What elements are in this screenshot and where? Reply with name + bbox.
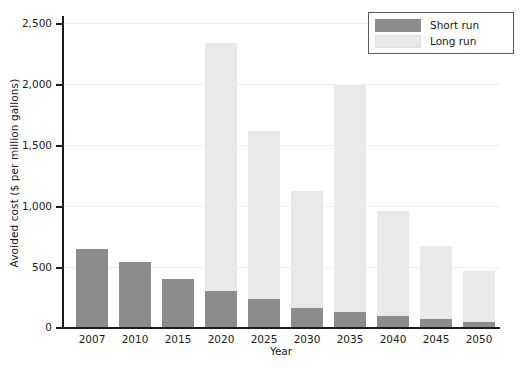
bar-2025[interactable]	[248, 131, 280, 327]
bar-2007[interactable]	[76, 249, 108, 327]
bar-chart-figure: Avoided cost ($ per million gallons) 2,5…	[0, 0, 521, 368]
bar-segment-long-run[interactable]	[420, 246, 452, 319]
x-axis-label: Year	[62, 345, 500, 357]
x-tick-label-2025: 2025	[242, 333, 286, 345]
x-tick-label-2007: 2007	[70, 333, 114, 345]
bar-segment-short-run[interactable]	[420, 319, 452, 327]
bar-segment-short-run[interactable]	[334, 312, 366, 327]
bar-segment-long-run[interactable]	[377, 211, 409, 316]
legend-item-short-run[interactable]: Short run	[375, 17, 507, 33]
y-axis-tick-labels: 2,500 2,000 1,500 1,000 500 0	[4, 0, 52, 368]
bar-2030[interactable]	[291, 191, 323, 327]
plot-area	[62, 18, 500, 327]
bar-segment-short-run[interactable]	[291, 308, 323, 327]
bar-segment-long-run[interactable]	[205, 43, 237, 290]
bar-segment-short-run[interactable]	[463, 322, 495, 327]
bar-segment-long-run[interactable]	[334, 85, 366, 312]
x-axis-spine	[62, 327, 500, 329]
gridline-ghost	[62, 206, 500, 207]
legend-swatch-long-run	[375, 35, 421, 48]
bar-segment-short-run[interactable]	[205, 291, 237, 327]
bar-2020[interactable]	[205, 43, 237, 327]
y-tick-label: 0	[8, 322, 52, 333]
bar-segment-short-run[interactable]	[377, 316, 409, 327]
y-tick-label: 2,000	[8, 79, 52, 90]
x-tick-label-2035: 2035	[328, 333, 372, 345]
bar-2040[interactable]	[377, 211, 409, 327]
bar-segment-long-run[interactable]	[463, 271, 495, 321]
x-tick-label-2020: 2020	[199, 333, 243, 345]
x-tick-label-2010: 2010	[113, 333, 157, 345]
x-tick-label-2030: 2030	[285, 333, 329, 345]
x-tick-label-2045: 2045	[414, 333, 458, 345]
bar-segment-short-run[interactable]	[76, 249, 108, 327]
x-tick-label-2015: 2015	[156, 333, 200, 345]
legend: Short run Long run	[368, 12, 514, 54]
bar-segment-short-run[interactable]	[162, 279, 194, 327]
bar-segment-short-run[interactable]	[119, 262, 151, 327]
bar-segment-short-run[interactable]	[248, 299, 280, 327]
x-tick-label-2050: 2050	[457, 333, 501, 345]
bar-2015[interactable]	[162, 279, 194, 327]
bar-2050[interactable]	[463, 271, 495, 327]
y-tick-label: 2,500	[8, 18, 52, 29]
legend-item-long-run[interactable]: Long run	[375, 33, 507, 49]
x-tick-label-2040: 2040	[371, 333, 415, 345]
legend-label-short-run: Short run	[430, 20, 479, 31]
legend-swatch-short-run	[375, 19, 421, 32]
legend-label-long-run: Long run	[430, 36, 476, 47]
bar-2035[interactable]	[334, 85, 366, 327]
gridline-ghost	[62, 84, 500, 85]
y-tick-label: 1,000	[8, 201, 52, 212]
y-tick-label: 1,500	[8, 140, 52, 151]
bar-segment-long-run[interactable]	[291, 191, 323, 307]
y-tick-label: 500	[8, 262, 52, 273]
bar-2010[interactable]	[119, 262, 151, 327]
bar-2045[interactable]	[420, 246, 452, 327]
gridline-ghost	[62, 145, 500, 146]
bar-segment-long-run[interactable]	[248, 131, 280, 299]
